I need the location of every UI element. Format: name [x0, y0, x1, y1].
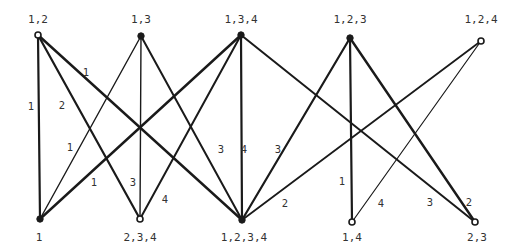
- node-t13: [138, 33, 144, 39]
- node-label: 1,4: [342, 231, 362, 244]
- edge-t13-b1234: [141, 36, 242, 220]
- node-t134: [238, 32, 244, 38]
- edge-label: 4: [162, 193, 168, 205]
- bipartite-graph-diagram: 121133144331224 1,21,31,3,41,2,31,2,412,…: [0, 0, 518, 252]
- edge-label: 1: [339, 175, 345, 187]
- node-label: 1,2,3,4: [221, 231, 268, 244]
- edge-t12-b234: [38, 35, 140, 219]
- edge-t134-b1234: [241, 35, 242, 220]
- edge-label: 4: [378, 197, 384, 209]
- edge-label: 2: [59, 99, 65, 111]
- edge-label: 1: [28, 100, 34, 112]
- edge-label: 1: [83, 66, 89, 78]
- node-label: 2,3,4: [123, 231, 156, 244]
- node-b1234: [239, 217, 245, 223]
- edge-label: 3: [427, 196, 433, 208]
- node-labels-layer: 1,21,31,3,41,2,31,2,412,3,41,2,3,41,42,3: [28, 13, 498, 244]
- node-label: 1,2,4: [464, 13, 497, 26]
- edges-layer: [38, 35, 481, 222]
- edge-t12-b1: [38, 35, 40, 219]
- edge-label: 1: [67, 141, 73, 153]
- node-b1: [37, 216, 43, 222]
- edge-t123-b23: [350, 38, 475, 222]
- edge-label: 3: [130, 176, 136, 188]
- node-b14: [349, 219, 355, 225]
- graph-canvas: 121133144331224 1,21,31,3,41,2,31,2,412,…: [0, 0, 518, 252]
- edge-t123-b14: [350, 38, 352, 222]
- edge-label: 4: [241, 143, 247, 155]
- node-label: 1: [36, 231, 43, 244]
- nodes-layer: [35, 32, 484, 225]
- edge-t123-b1234: [242, 38, 350, 220]
- edge-label: 1: [91, 176, 97, 188]
- node-label: 1,2,3: [333, 13, 366, 26]
- node-label: 1,3: [131, 13, 151, 26]
- node-label: 1,3,4: [224, 13, 257, 26]
- edge-label: 3: [218, 143, 224, 155]
- node-label: 1,2: [28, 13, 48, 26]
- edge-label: 3: [275, 143, 281, 155]
- node-b23: [472, 219, 478, 225]
- node-label: 2,3: [467, 231, 487, 244]
- edge-label: 2: [282, 197, 288, 209]
- node-b234: [137, 216, 143, 222]
- edge-t124-b1234: [242, 41, 481, 220]
- edge-label: 2: [466, 196, 472, 208]
- node-t12: [35, 32, 41, 38]
- node-t124: [478, 38, 484, 44]
- node-t123: [347, 35, 353, 41]
